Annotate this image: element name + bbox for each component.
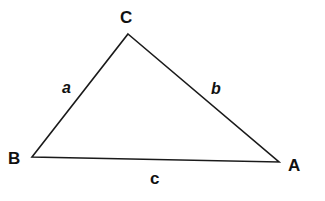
triangle-diagram: C B A a b c (0, 0, 325, 201)
side-label-c: c (150, 169, 159, 188)
vertex-label-a: A (288, 156, 300, 175)
vertex-label-b: B (8, 149, 20, 168)
triangle-abc (32, 34, 279, 162)
side-label-b: b (211, 80, 221, 97)
side-label-a: a (62, 79, 71, 96)
vertex-label-c: C (120, 8, 132, 27)
